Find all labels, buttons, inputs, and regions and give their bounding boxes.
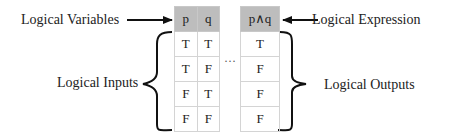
table-row: T <box>241 32 280 57</box>
table-row: T F <box>175 57 220 82</box>
cell: F <box>241 57 280 82</box>
logical-variables-label: Logical Variables <box>21 12 119 28</box>
cell: F <box>241 107 280 132</box>
table-row: F <box>241 107 280 132</box>
cell: F <box>241 82 280 107</box>
header-p: p <box>175 7 198 32</box>
outputs-header-row: p∧q <box>241 7 280 32</box>
right-brace-icon <box>278 32 306 130</box>
cell: T <box>197 82 220 107</box>
logical-outputs-label: Logical Outputs <box>324 77 415 93</box>
header-q: q <box>197 7 220 32</box>
cell: F <box>175 107 198 132</box>
header-p-and-q: p∧q <box>241 7 280 32</box>
cell: F <box>175 82 198 107</box>
cell: T <box>197 32 220 57</box>
logical-expression-label: Logical Expression <box>312 12 420 28</box>
ellipsis: ··· <box>224 54 236 69</box>
table-row: F F <box>175 107 220 132</box>
left-brace-icon <box>143 32 172 130</box>
inputs-truth-table: p q T T T F F T F F <box>174 6 220 132</box>
logical-inputs-label: Logical Inputs <box>57 75 138 91</box>
table-row: F <box>241 57 280 82</box>
cell: T <box>175 32 198 57</box>
cell: T <box>241 32 280 57</box>
table-row: F T <box>175 82 220 107</box>
cell: T <box>175 57 198 82</box>
cell: F <box>197 57 220 82</box>
table-row: T T <box>175 32 220 57</box>
table-row: F <box>241 82 280 107</box>
cell: F <box>197 107 220 132</box>
inputs-header-row: p q <box>175 7 220 32</box>
outputs-truth-table: p∧q T F F F <box>240 6 280 132</box>
